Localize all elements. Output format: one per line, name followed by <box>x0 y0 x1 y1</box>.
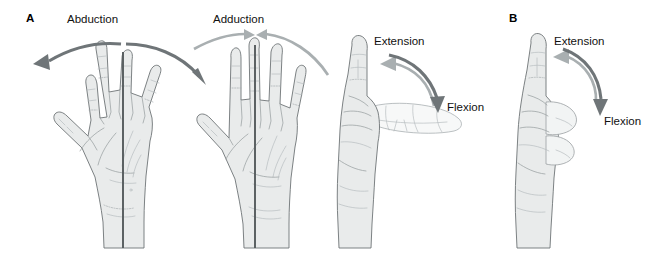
adduction-label: Adduction <box>213 13 264 25</box>
flexion-label-a: Flexion <box>447 101 484 113</box>
abduction-label: Abduction <box>67 13 118 25</box>
extension-label-b: Extension <box>554 35 605 47</box>
finger-range-of-motion-figure: A Abduction <box>0 0 660 254</box>
extension-label-a: Extension <box>374 35 425 47</box>
panel-a-letter: A <box>26 12 34 24</box>
panel-b-letter: B <box>509 12 517 24</box>
flexion-label-b: Flexion <box>604 115 641 127</box>
